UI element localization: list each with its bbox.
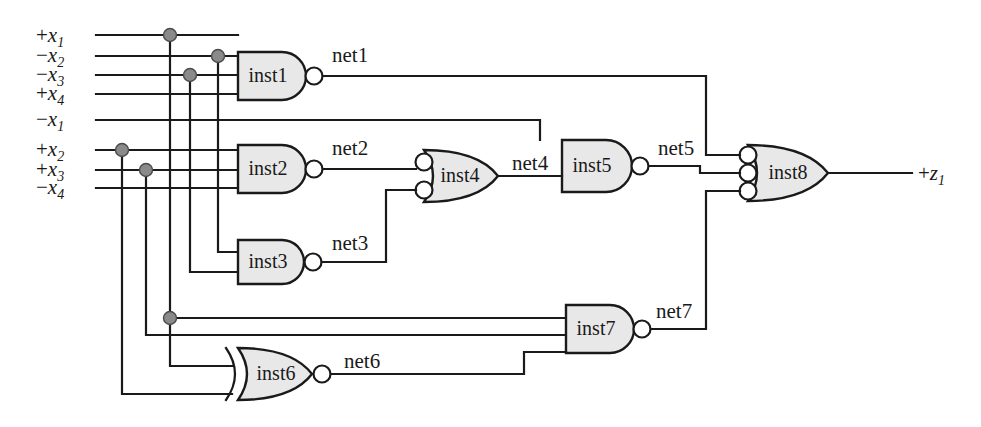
net-label-net5: net5 [658,136,694,160]
junction-dot [184,69,197,82]
net-label-net6: net6 [344,349,380,373]
inst5-output-bubble [632,158,649,175]
gate-inst3[interactable]: inst3 [238,240,322,284]
inst7-output-bubble [634,321,651,338]
gate-label-inst3: inst3 [249,250,288,272]
wire-net5 [649,166,740,173]
net-label-net1: net1 [332,43,368,67]
net-label-net4: net4 [512,151,549,175]
gate-label-inst7: inst7 [577,317,616,339]
inst6-xor-arc [226,348,235,400]
inst8-input-bubble-1 [740,147,757,164]
gate-label-inst2: inst2 [249,157,288,179]
inst4-input-bubble-2 [416,182,433,199]
gate-inst7[interactable]: inst7 [566,305,651,353]
branch-in2-to-inst3 [218,56,238,252]
gate-label-inst1: inst1 [249,64,288,86]
gate-inst8[interactable]: inst8 [740,145,829,201]
gate-inst5[interactable]: inst5 [562,140,649,192]
input-port-labels: +x1 −x2 −x3 +x4 −x1 +x2 +x3 −x4 [36,23,64,202]
junction-dot [164,312,177,325]
gate-label-inst6: inst6 [257,362,296,384]
branch-wires [122,35,566,394]
gate-label-inst8: inst8 [769,161,808,183]
junction-dot [116,144,129,157]
inst2-output-bubble [306,161,323,178]
net-label-net7: net7 [656,299,692,323]
junction-dot [212,50,225,63]
junction-dot [140,164,153,177]
inst8-input-bubble-3 [740,183,757,200]
gate-label-inst4: inst4 [441,164,480,186]
gate-inst2[interactable]: inst2 [238,145,323,193]
gate-inst1[interactable]: inst1 [238,52,323,100]
output-label-z1: +z1 [918,161,945,188]
gate-inst4[interactable]: inst4 [416,150,499,202]
wire-in5-to-inst5 [96,120,540,140]
inst1-output-bubble [306,68,323,85]
junction-dot [164,29,177,42]
inst3-output-bubble [305,254,322,271]
inst4-input-bubble-1 [416,154,433,171]
gate-inst6[interactable]: inst6 [226,348,331,400]
circuit-schematic: +x1 −x2 −x3 +x4 −x1 +x2 +x3 −x4 [0,0,981,427]
inst8-input-bubble-2 [740,165,757,182]
input-label-in5: −x1 [36,107,64,134]
branch-in3-to-inst3 [190,75,238,272]
branch-in1-to-inst6 [170,318,232,366]
gate-label-inst5: inst5 [573,154,612,176]
net-label-net2: net2 [332,136,368,160]
net-label-net3: net3 [332,231,368,255]
output-port-label: +z1 [918,161,945,188]
inst6-output-bubble [314,366,331,383]
